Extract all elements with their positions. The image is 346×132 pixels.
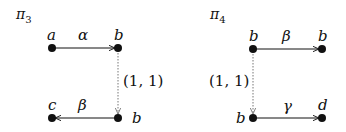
node-label-d: d [318, 96, 328, 114]
diagram-pi4: π4 b b b d β (1, 1) γ [209, 6, 328, 127]
edge-label-gamma: γ [283, 97, 292, 115]
diagram-pi3: π3 a b c b α (1, 1) β [15, 6, 163, 127]
diagram-canvas: π3 a b c b α (1, 1) β π4 b b b d β (1, 1… [0, 0, 346, 132]
node-label-b-top-right: b [318, 27, 328, 45]
edge-label-beta: β [77, 96, 87, 114]
node-label-b-bottom-left: b [236, 109, 246, 127]
edge-label-1-1: (1, 1) [209, 72, 249, 90]
pi3-title: π3 [15, 6, 32, 25]
node-label-c: c [48, 96, 57, 114]
node-b-top-right [318, 45, 326, 53]
node-label-b-top: b [114, 26, 124, 44]
node-label-b-bottom: b [132, 109, 142, 127]
node-b-top-left [249, 45, 257, 53]
edge-label-1-1: (1, 1) [123, 72, 163, 90]
node-b-bottom-left [249, 114, 257, 122]
node-d [318, 114, 326, 122]
node-a [48, 44, 56, 52]
edge-label-beta: β [281, 27, 291, 45]
node-label-a: a [47, 26, 56, 44]
node-c [48, 114, 56, 122]
node-label-b-top-left: b [249, 27, 259, 45]
node-b-bottom [114, 114, 122, 122]
pi4-title: π4 [209, 6, 226, 25]
edge-label-alpha: α [78, 26, 88, 44]
node-b-top [114, 44, 122, 52]
